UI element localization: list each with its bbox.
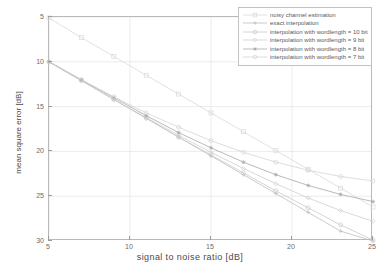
- series-line: [49, 62, 373, 181]
- x-tick-label: 20: [287, 243, 295, 250]
- legend-label: exact interpolation: [268, 19, 319, 27]
- y-tick-mark: [48, 240, 52, 241]
- legend-marker-icon: [242, 53, 268, 61]
- y-tick-mark: [48, 150, 52, 151]
- y-tick-mark: [48, 16, 52, 17]
- series-line: [49, 62, 373, 221]
- x-tick-label: 25: [368, 243, 376, 250]
- legend-marker-icon: [242, 28, 268, 36]
- y-tick-label: 15: [4, 102, 44, 109]
- legend-item[interactable]: interpolation with wordlength = 9 bit: [242, 36, 368, 44]
- legend-label: interpolation with wordlength = 8 bit: [268, 45, 364, 53]
- legend-marker-icon: [242, 45, 268, 53]
- x-tick-mark: [372, 236, 373, 240]
- y-tick-mark: [48, 106, 52, 107]
- legend-marker-icon: [242, 36, 268, 44]
- y-tick-mark: [48, 195, 52, 196]
- x-tick-label: 5: [46, 243, 50, 250]
- legend-label: interpolation with wordlength = 9 bit: [268, 36, 364, 44]
- y-tick-label: 30: [4, 237, 44, 244]
- x-tick-mark: [129, 236, 130, 240]
- y-tick-label: 20: [4, 147, 44, 154]
- legend-item[interactable]: interpolation with wordlength = 7 bit: [242, 53, 368, 61]
- x-tick-label: 10: [125, 243, 133, 250]
- x-tick-mark: [291, 236, 292, 240]
- legend-label: noisy channel estimation: [268, 11, 336, 19]
- legend-label: interpolation with wordlength = 7 bit: [268, 53, 364, 61]
- legend-marker-icon: [242, 19, 268, 27]
- y-tick-label: 10: [4, 57, 44, 64]
- legend-item[interactable]: noisy channel estimation: [242, 11, 368, 19]
- chart-container: 51015202530 510152025 signal to noise ra…: [0, 0, 380, 269]
- x-axis-label: signal to noise ratio [dB]: [0, 252, 380, 262]
- series-line: [49, 62, 373, 202]
- legend-item[interactable]: exact interpolation: [242, 19, 368, 27]
- legend-item[interactable]: interpolation with wordlength = 8 bit: [242, 45, 368, 53]
- x-tick-label: 15: [206, 243, 214, 250]
- legend-marker-icon: [242, 11, 268, 19]
- legend-item[interactable]: interpolation with wordlength = 10 bit: [242, 28, 368, 36]
- x-tick-mark: [210, 236, 211, 240]
- x-tick-mark: [48, 236, 49, 240]
- y-tick-mark: [48, 61, 52, 62]
- chart-legend: noisy channel estimationexact interpolat…: [238, 7, 372, 66]
- y-tick-label: 25: [4, 192, 44, 199]
- y-tick-label: 5: [4, 13, 44, 20]
- y-axis-label: mean square error [dB]: [14, 68, 23, 198]
- legend-label: interpolation with wordlength = 10 bit: [268, 28, 368, 36]
